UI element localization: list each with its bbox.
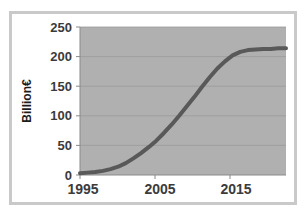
x-tick-label-2015: 2015 — [220, 181, 251, 197]
x-tick-label-2005: 2005 — [144, 181, 175, 197]
line-chart: 250 200 150 100 50 0 1995 2005 2015 Bill… — [0, 0, 304, 213]
y-tick-label-150: 150 — [50, 79, 72, 94]
y-tick-label-100: 100 — [50, 108, 72, 123]
x-axis-ticks — [80, 175, 230, 179]
y-axis-ticks — [76, 27, 80, 175]
y-tick-label-200: 200 — [50, 49, 72, 64]
chart-figure: 250 200 150 100 50 0 1995 2005 2015 Bill… — [0, 0, 304, 213]
y-axis-title: Billion€ — [20, 79, 34, 123]
y-tick-label-50: 50 — [58, 138, 72, 153]
y-tick-label-250: 250 — [50, 20, 72, 35]
x-tick-label-1995: 1995 — [67, 181, 98, 197]
